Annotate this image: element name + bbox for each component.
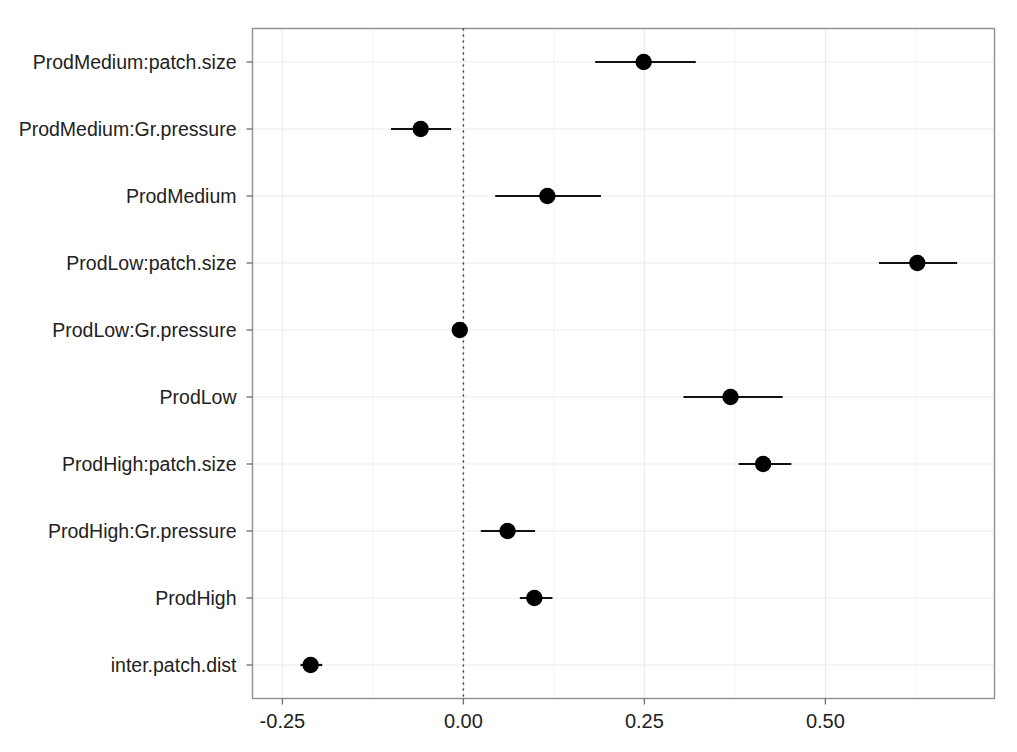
y-axis-category-label: ProdMedium:patch.size [33, 51, 237, 73]
estimate-point-marker [539, 188, 555, 204]
estimate-point-marker [722, 389, 738, 405]
plot-background [0, 0, 1017, 752]
estimate-point-marker [755, 456, 771, 472]
y-axis-category-label: ProdMedium [126, 185, 237, 207]
estimate-point-marker [412, 121, 428, 137]
y-axis-category-label: ProdHigh:Gr.pressure [48, 520, 237, 542]
y-axis-category-label: ProdLow [160, 386, 238, 408]
y-axis-category-label: ProdLow:Gr.pressure [52, 319, 236, 341]
y-axis-category-label: inter.patch.dist [111, 654, 237, 676]
x-axis-tick-label: 0.00 [444, 710, 483, 732]
estimate-row [452, 322, 468, 338]
estimate-point-marker [302, 657, 318, 673]
y-axis-category-label: ProdLow:patch.size [66, 252, 236, 274]
estimate-point-marker [635, 54, 651, 70]
coefficient-plot: ProdMedium:patch.sizeProdMedium:Gr.press… [0, 0, 1017, 752]
estimate-point-marker [909, 255, 925, 271]
estimate-point-marker [526, 590, 542, 606]
x-axis-tick-label: -0.25 [260, 710, 306, 732]
y-axis-category-label: ProdHigh:patch.size [62, 453, 237, 475]
y-axis-category-label: ProdMedium:Gr.pressure [19, 118, 237, 140]
chart-canvas: ProdMedium:patch.sizeProdMedium:Gr.press… [0, 0, 1017, 752]
x-axis-tick-label: 0.25 [625, 710, 664, 732]
y-axis-category-label: ProdHigh [155, 587, 236, 609]
estimate-point-marker [499, 523, 515, 539]
x-axis-tick-label: 0.50 [806, 710, 845, 732]
estimate-point-marker [452, 322, 468, 338]
